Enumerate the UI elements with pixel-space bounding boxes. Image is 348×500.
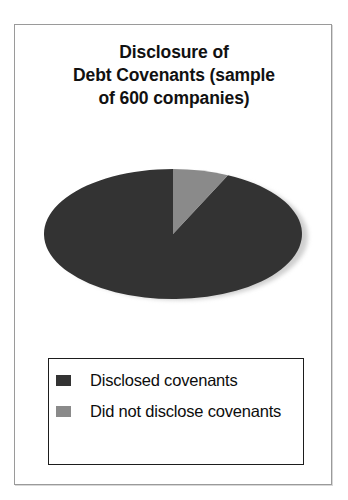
pie-chart-svg <box>44 169 302 299</box>
pie-slice-0[interactable] <box>44 169 302 299</box>
title-line-1: Disclosure of <box>15 41 333 64</box>
legend-item-disclosed[interactable]: Disclosed covenants <box>49 369 303 391</box>
legend-label-disclosed: Disclosed covenants <box>90 369 303 391</box>
pie-chart <box>15 147 333 297</box>
legend-swatch-not-disclosed <box>56 406 71 417</box>
page-title: Disclosure of Debt Covenants (sample of … <box>15 41 333 110</box>
chart-legend: Disclosed covenants Did not disclose cov… <box>48 358 304 465</box>
legend-label-not-disclosed: Did not disclose covenants <box>90 400 303 422</box>
title-line-2: Debt Covenants (sample <box>15 64 333 87</box>
legend-swatch-disclosed <box>56 375 71 386</box>
figure-frame: Disclosure of Debt Covenants (sample of … <box>14 24 332 485</box>
title-line-3: of 600 companies) <box>15 87 333 110</box>
legend-item-not-disclosed[interactable]: Did not disclose covenants <box>49 400 303 422</box>
